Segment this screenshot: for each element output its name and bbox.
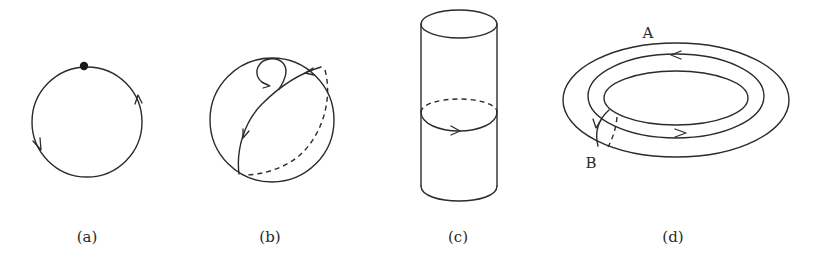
base-point-dot [80,62,88,70]
sphere-outline [210,58,334,182]
caption-b: (b) [259,228,280,246]
great-circle-front [238,67,321,174]
waist-loop-front [421,112,497,131]
figure: (a) (b) ( [0,0,822,259]
label-a: A [642,24,654,42]
small-loop [257,59,286,89]
great-circle-back [247,70,328,175]
caption-c: (c) [448,228,468,246]
panel-d-torus: A B (d) [563,24,789,246]
torus-inner [604,71,748,125]
arrow-right-icon [675,129,686,137]
caption-d: (d) [662,228,683,246]
label-b: B [585,154,596,172]
caption-a: (a) [77,228,98,246]
cylinder-bottom [421,186,497,201]
waist-loop-back [421,99,497,112]
panel-b-sphere: (b) [210,58,334,246]
arrow-left-icon [671,51,681,59]
loop-b-back [608,117,617,147]
panel-a-circle: (a) [32,62,142,246]
panel-c-cylinder: (c) [421,10,497,246]
cylinder-top [421,10,497,38]
circle-loop [32,67,142,177]
